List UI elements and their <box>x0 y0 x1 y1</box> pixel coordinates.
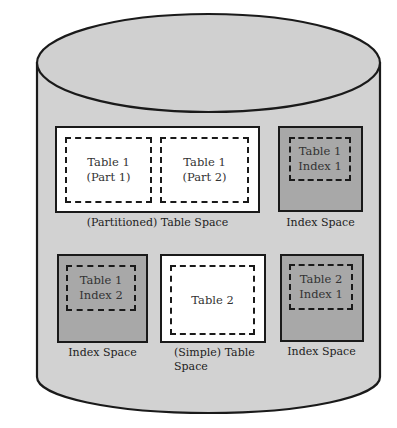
table-title: Table 2 <box>191 293 233 308</box>
cylinder-top <box>37 14 380 112</box>
partition-title: Table 1 <box>87 155 129 170</box>
index-title: Table 1 <box>299 144 341 159</box>
simple-table-space-label: (Simple) Table Space <box>174 346 255 374</box>
index-space-label: Index Space <box>52 346 153 360</box>
table2-index1: Table 2 Index 1 <box>289 264 353 310</box>
partitioned-table-space-label: (Partitioned) Table Space <box>55 216 260 230</box>
table1-index1: Table 1 Index 1 <box>289 137 351 181</box>
index-space-label: Index Space <box>270 216 371 230</box>
index-subtitle: Index 1 <box>298 159 342 174</box>
index-title: Table 1 <box>80 273 122 288</box>
index-title: Table 2 <box>300 272 342 287</box>
simple-label-line2: Space <box>174 360 255 374</box>
index-subtitle: Index 2 <box>79 288 123 303</box>
partition-title: Table 1 <box>183 155 225 170</box>
partition-subtitle: (Part 2) <box>182 170 226 185</box>
table1-part1-partition: Table 1 (Part 1) <box>65 137 152 203</box>
partition-subtitle: (Part 1) <box>86 170 130 185</box>
index-subtitle: Index 1 <box>299 287 343 302</box>
table1-index2: Table 1 Index 2 <box>66 265 136 311</box>
simple-label-line1: (Simple) Table <box>174 346 255 360</box>
index-space-label: Index Space <box>271 345 372 359</box>
table1-part2-partition: Table 1 (Part 2) <box>160 137 249 203</box>
table2: Table 2 <box>170 265 255 335</box>
